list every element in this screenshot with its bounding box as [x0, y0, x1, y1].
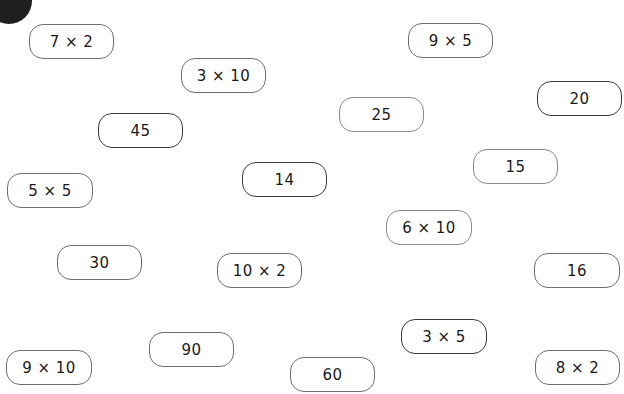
- card-90[interactable]: 90: [149, 332, 234, 367]
- card-15[interactable]: 15: [473, 149, 558, 184]
- card-3x5[interactable]: 3 × 5: [401, 319, 487, 354]
- card-6x10[interactable]: 6 × 10: [386, 210, 472, 245]
- card-5x5[interactable]: 5 × 5: [7, 173, 93, 208]
- worksheet-page: 7 × 2 9 × 5 3 × 10 20 25 45 15 14 5 × 5 …: [0, 0, 624, 394]
- card-7x2[interactable]: 7 × 2: [29, 24, 114, 59]
- card-45[interactable]: 45: [98, 113, 183, 148]
- card-3x10[interactable]: 3 × 10: [181, 58, 266, 93]
- card-9x10[interactable]: 9 × 10: [6, 350, 92, 385]
- question-number-badge: [0, 0, 32, 24]
- card-16[interactable]: 16: [534, 253, 620, 288]
- card-9x5[interactable]: 9 × 5: [408, 23, 493, 58]
- card-25[interactable]: 25: [339, 97, 424, 132]
- card-10x2[interactable]: 10 × 2: [217, 253, 302, 288]
- card-60[interactable]: 60: [290, 357, 375, 392]
- card-14[interactable]: 14: [242, 162, 327, 197]
- card-20[interactable]: 20: [537, 81, 622, 116]
- card-8x2[interactable]: 8 × 2: [535, 350, 620, 385]
- card-30[interactable]: 30: [57, 245, 142, 280]
